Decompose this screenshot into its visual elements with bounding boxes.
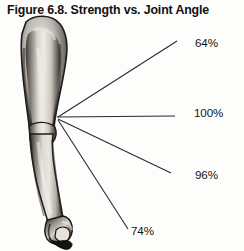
strength-label-96: 96% <box>195 168 218 181</box>
ray-64 <box>58 41 177 117</box>
strength-label-100: 100% <box>194 106 223 119</box>
ray-74 <box>58 120 128 229</box>
ray-100 <box>57 116 175 117</box>
strength-label-64: 64% <box>195 36 218 49</box>
figure-container: Figure 6.8. Strength vs. Joint Angle <box>0 0 244 251</box>
strength-label-74: 74% <box>131 224 154 237</box>
